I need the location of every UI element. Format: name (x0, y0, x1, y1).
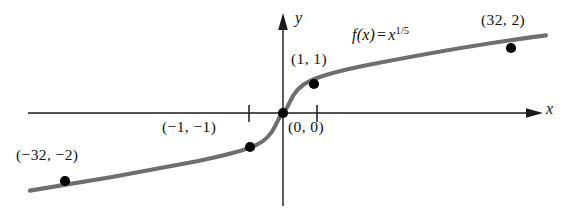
point-1-1 (309, 79, 319, 89)
point-0-0 (278, 108, 288, 118)
data-points (60, 43, 516, 186)
function-base: x (388, 26, 395, 43)
function-notation: f(x) (352, 26, 375, 43)
function-exponent: 1/5 (396, 25, 409, 36)
plot-canvas (0, 0, 575, 217)
y-axis-label: y (295, 10, 302, 26)
point-label-32-2: (32, 2) (481, 12, 525, 28)
function-equation-label: f(x)=x1/5 (352, 26, 409, 43)
point-neg1-neg1 (245, 142, 255, 152)
point-label-neg1-neg1: (−1, −1) (162, 119, 216, 135)
graph-figure: y x f(x)=x1/5 (32, 2) (1, 1) (0, 0) (−1,… (0, 0, 575, 217)
point-neg32-neg2 (60, 176, 70, 186)
point-32-2 (506, 43, 516, 53)
point-label-1-1: (1, 1) (291, 51, 327, 67)
equals-sign: = (375, 26, 388, 43)
point-label-0-0: (0, 0) (288, 119, 324, 135)
x-axis-label: x (546, 101, 553, 117)
point-label-neg32-neg2: (−32, −2) (16, 147, 78, 163)
